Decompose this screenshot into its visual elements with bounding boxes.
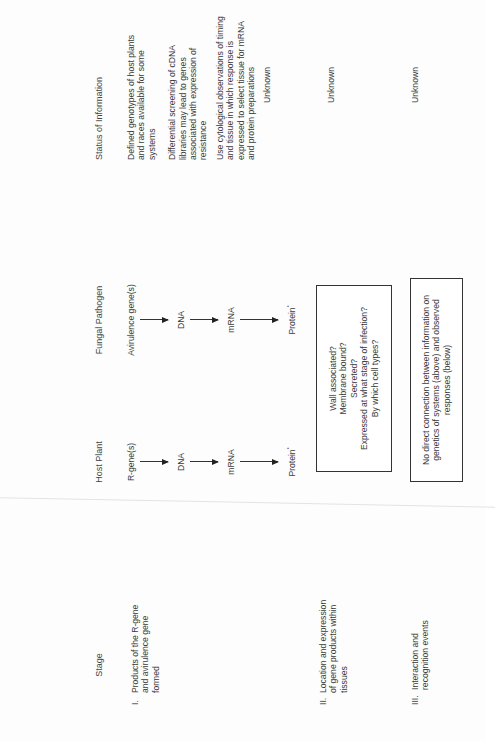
- status-stage-1: Defined genotypes of host plants and rac…: [126, 2, 273, 160]
- question-cell-types: By which cell types?: [370, 307, 380, 450]
- question-membrane-bound: Membrane bound?: [338, 307, 348, 450]
- header-status: Status of Information: [94, 5, 104, 160]
- stage-1-label: I.Products of the R-gene and avirulence …: [130, 585, 161, 705]
- stage-2-label: II.Location and expression of gene produ…: [318, 585, 349, 705]
- fungal-protein-text: Protein: [287, 307, 297, 334]
- stage-2-numeral: II.: [318, 693, 328, 705]
- fungal-avirulence-gene: Avirulence gene(s): [126, 280, 136, 360]
- question-infection-stage: Expressed at what stage of infection?: [359, 307, 369, 450]
- fungal-mrna: mRNA: [226, 290, 236, 350]
- header-stage: Stage: [94, 635, 104, 695]
- arrow-down-icon: [190, 319, 218, 320]
- status-stage-3: Unknown: [410, 10, 420, 160]
- status-cytological-observations: Use cytological observations of timing a…: [215, 8, 257, 160]
- header-fungal-pathogen: Fungal Pathogen: [94, 280, 104, 360]
- arrow-down-icon: [240, 319, 278, 320]
- stage-3-label: III.Interaction and recognition events: [410, 585, 431, 705]
- fungal-protein: Protein*: [287, 290, 297, 350]
- stage-3-numeral: III.: [410, 690, 420, 705]
- host-dna: DNA: [176, 432, 186, 492]
- stage-1-text: Products of the R-gene and avirulence ge…: [130, 601, 161, 693]
- no-connection-text: No direct connection between information…: [421, 287, 452, 473]
- fungal-protein-mark: *: [286, 305, 292, 307]
- arrow-down-icon: [190, 461, 218, 462]
- host-mrna: mRNA: [226, 432, 236, 492]
- arrow-down-icon: [240, 461, 278, 462]
- host-protein-text: Protein: [287, 449, 297, 476]
- stage-3-text: Interaction and recognition events: [410, 610, 431, 690]
- stage-1-numeral: I.: [130, 693, 140, 705]
- location-questions-box: Wall associated? Membrane bound? Secrete…: [316, 285, 392, 472]
- status-stage-2: Unknown: [326, 10, 336, 160]
- host-protein: Protein*: [287, 432, 297, 492]
- question-wall-associated: Wall associated?: [328, 307, 338, 450]
- page-crease: [0, 497, 495, 508]
- arrow-down-icon: [140, 319, 168, 320]
- host-protein-mark: *: [286, 447, 292, 449]
- status-unknown: Unknown: [262, 10, 272, 160]
- status-differential-screening: Differential screening of cDNA libraries…: [167, 28, 209, 160]
- stage-2-text: Location and expression of gene products…: [318, 593, 349, 693]
- question-secreted: Secreted?: [349, 307, 359, 450]
- header-host-plant: Host Plant: [94, 432, 104, 492]
- host-r-gene: R-gene(s): [126, 432, 136, 492]
- fungal-dna: DNA: [176, 290, 186, 350]
- no-connection-box: No direct connection between information…: [410, 278, 463, 482]
- arrow-down-icon: [140, 461, 168, 462]
- status-defined-genotypes: Defined genotypes of host plants and rac…: [126, 28, 157, 160]
